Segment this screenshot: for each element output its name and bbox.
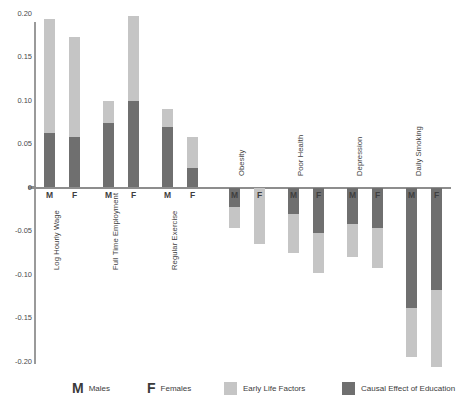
segment-early-life-factors — [44, 19, 55, 133]
early-life-factors-label: Early Life Factors — [243, 384, 305, 393]
early-life-factors-swatch — [224, 382, 237, 395]
segment-early-life-factors — [187, 137, 198, 168]
segment-causal-effect-of-education — [128, 101, 139, 187]
sex-label-f: F — [430, 190, 444, 200]
males-label: Males — [89, 384, 110, 393]
y-tick-label: -0.20 — [2, 357, 32, 366]
sex-label-m: M — [405, 190, 419, 200]
females-glyph: F — [147, 381, 156, 395]
segment-causal-effect-of-education — [69, 137, 80, 187]
category-label-log-hourly-wage: Log Hourly Wage — [52, 210, 61, 270]
stacked-bar-chart: 0.200.150.100.050-0.05-0.10-0.15-0.20 MF… — [0, 0, 457, 417]
causal-effect-swatch — [342, 382, 355, 395]
segment-early-life-factors — [69, 37, 80, 137]
sex-label-m: M — [228, 190, 242, 200]
females-label: Females — [161, 384, 192, 393]
segment-early-life-factors — [372, 228, 383, 267]
zero-baseline — [34, 187, 451, 189]
category-label-depression: Depression — [355, 137, 364, 176]
y-axis-line — [34, 22, 36, 364]
segment-causal-effect-of-education — [162, 127, 173, 188]
sex-label-m: M — [346, 190, 360, 200]
sex-label-f: F — [127, 190, 141, 200]
segment-causal-effect-of-education — [187, 168, 198, 187]
y-tick-label: -0.05 — [2, 226, 32, 235]
y-tick-label: -0.10 — [2, 270, 32, 279]
sex-label-m: M — [161, 190, 175, 200]
category-label-obesity: Obesity — [237, 150, 246, 176]
category-label-full-time-employment: Full Time Employment — [111, 193, 120, 270]
y-tick-label: -0.15 — [2, 313, 32, 322]
segment-early-life-factors — [313, 233, 324, 273]
category-label-daily-smoking: Daily Smoking — [414, 126, 423, 176]
y-tick-label: 0.10 — [2, 96, 32, 105]
legend-item-early-life-factors: Early Life Factors — [224, 378, 305, 398]
chart-legend: M Males F Females Early Life Factors Cau… — [0, 378, 457, 408]
segment-early-life-factors — [229, 207, 240, 229]
segment-early-life-factors — [128, 16, 139, 101]
sex-label-f: F — [253, 190, 267, 200]
segment-early-life-factors — [431, 290, 442, 367]
segment-early-life-factors — [103, 101, 114, 123]
causal-effect-label: Causal Effect of Education — [361, 384, 455, 393]
y-tick-label: 0.05 — [2, 139, 32, 148]
segment-early-life-factors — [406, 308, 417, 358]
sex-label-m: M — [287, 190, 301, 200]
y-tick-label: 0.20 — [2, 9, 32, 18]
sex-label-f: F — [68, 190, 82, 200]
sex-label-f: F — [312, 190, 326, 200]
sex-label-m: M — [43, 190, 57, 200]
category-label-regular-exercise: Regular Exercise — [170, 211, 179, 270]
category-label-poor-health: Poor Health — [296, 135, 305, 176]
segment-causal-effect-of-education — [406, 188, 417, 308]
segment-early-life-factors — [288, 214, 299, 252]
plot-area: 0.200.150.100.050-0.05-0.10-0.15-0.20 MF… — [0, 0, 457, 372]
segment-early-life-factors — [162, 109, 173, 126]
y-tick-label: 0.15 — [2, 52, 32, 61]
segment-early-life-factors — [347, 224, 358, 257]
sex-label-f: F — [186, 190, 200, 200]
segment-causal-effect-of-education — [44, 133, 55, 188]
segment-causal-effect-of-education — [431, 188, 442, 291]
y-tick-label: 0 — [2, 183, 32, 192]
legend-item-females: F Females — [147, 378, 191, 398]
legend-item-causal-effect: Causal Effect of Education — [342, 378, 455, 398]
sex-label-f: F — [371, 190, 385, 200]
males-glyph: M — [72, 381, 84, 395]
legend-item-males: M Males — [72, 378, 110, 398]
segment-causal-effect-of-education — [103, 123, 114, 187]
